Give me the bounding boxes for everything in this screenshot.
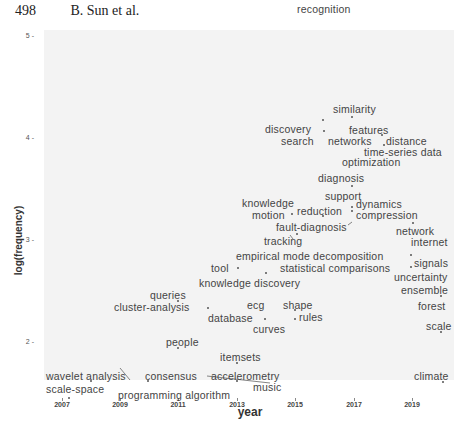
point-marker bbox=[322, 215, 324, 217]
point-marker bbox=[323, 130, 325, 132]
word-ensemble: ensemble bbox=[401, 285, 448, 296]
word-dynamics: dynamics bbox=[356, 199, 402, 210]
word-motion: motion bbox=[252, 210, 285, 221]
word-signals: signals bbox=[414, 258, 448, 269]
word-knowledge-discovery: knowledge discovery bbox=[199, 278, 300, 289]
word-music: music bbox=[253, 382, 281, 393]
word-consensus: consensus bbox=[145, 371, 197, 382]
word-fault-diagnosis: fault-diagnosis bbox=[276, 222, 347, 233]
word-search: search bbox=[281, 136, 314, 147]
word-scale: scale bbox=[426, 321, 452, 332]
word-compression: compression bbox=[356, 210, 418, 221]
point-marker bbox=[322, 119, 324, 121]
point-marker bbox=[351, 206, 353, 208]
point-marker bbox=[440, 295, 442, 297]
authors: B. Sun et al. bbox=[71, 3, 140, 19]
y-tick-2: 2 bbox=[14, 338, 34, 345]
point-marker bbox=[410, 254, 412, 256]
word-recognition: recognition bbox=[297, 4, 351, 15]
word-internet: internet bbox=[411, 237, 448, 248]
point-marker bbox=[177, 347, 179, 349]
x-tick-2015: 2015 bbox=[287, 401, 303, 408]
y-tick-4: 4 bbox=[14, 134, 34, 141]
word-tool: tool bbox=[211, 263, 229, 274]
word-ecg: ecg bbox=[247, 300, 265, 311]
point-marker bbox=[265, 272, 267, 274]
x-tick-2011: 2011 bbox=[170, 401, 185, 408]
word-queries: queries bbox=[150, 290, 186, 301]
word-diagnosis: diagnosis bbox=[318, 173, 364, 184]
word-people: people bbox=[166, 337, 199, 348]
word-similarity: similarity bbox=[333, 104, 376, 115]
word-statistical-comparisons: statistical comparisons bbox=[280, 263, 390, 274]
x-axis-label: year bbox=[238, 405, 263, 419]
point-marker bbox=[236, 362, 238, 364]
word-uncertainty: uncertainty bbox=[394, 272, 448, 283]
word-shape: shape bbox=[283, 300, 313, 311]
point-marker bbox=[90, 380, 92, 382]
word-scale-space: scale-space bbox=[46, 384, 104, 395]
page-header: 498 B. Sun et al. bbox=[15, 3, 139, 19]
point-marker bbox=[440, 331, 442, 333]
word-curves: curves bbox=[253, 324, 285, 335]
word-accelerometry: accelerometry bbox=[211, 371, 280, 382]
word-network: network bbox=[396, 226, 434, 237]
point-marker bbox=[236, 380, 238, 382]
x-tick-2019: 2019 bbox=[404, 401, 420, 408]
point-marker bbox=[412, 222, 414, 224]
word-rules: rules bbox=[299, 312, 323, 323]
word-cluster-analysis: cluster-analysis bbox=[114, 302, 190, 313]
point-marker bbox=[147, 380, 149, 382]
x-tick-2017: 2017 bbox=[346, 401, 362, 408]
point-marker bbox=[381, 134, 383, 136]
word-itemsets: itemsets bbox=[220, 352, 261, 363]
word-database: database bbox=[208, 313, 253, 324]
word-climate: climate bbox=[414, 371, 449, 382]
point-marker bbox=[68, 397, 70, 399]
point-marker bbox=[351, 210, 353, 212]
word-networks: networks bbox=[328, 136, 372, 147]
x-tick-2007: 2007 bbox=[54, 401, 70, 408]
word-knowledge: knowledge bbox=[242, 198, 294, 209]
word-distance: distance bbox=[386, 136, 427, 147]
x-tick-2009: 2009 bbox=[112, 401, 128, 408]
point-marker bbox=[294, 318, 296, 320]
point-marker bbox=[207, 307, 209, 309]
point-marker bbox=[410, 266, 412, 268]
word-discovery: discovery bbox=[265, 124, 311, 135]
point-marker bbox=[351, 185, 353, 187]
point-marker bbox=[351, 116, 353, 118]
page-number: 498 bbox=[15, 3, 67, 19]
y-axis-label: log(frequency) bbox=[13, 201, 24, 281]
word-tracking: tracking bbox=[264, 236, 302, 247]
word-wavelet-analysis: wavelet analysis bbox=[46, 371, 126, 382]
word-programming-algorithm: programming algorithm bbox=[118, 390, 230, 401]
word-optimization: optimization bbox=[342, 157, 400, 168]
point-marker bbox=[264, 318, 266, 320]
word-forest: forest bbox=[418, 301, 445, 312]
point-marker bbox=[237, 267, 239, 269]
word-empirical-mode-decomposition: empirical mode decomposition bbox=[236, 251, 383, 262]
point-marker bbox=[294, 309, 296, 311]
word-reduction: reduction bbox=[297, 206, 342, 217]
y-tick-5: 5 bbox=[14, 32, 34, 39]
point-marker bbox=[291, 213, 293, 215]
point-marker bbox=[442, 381, 444, 383]
